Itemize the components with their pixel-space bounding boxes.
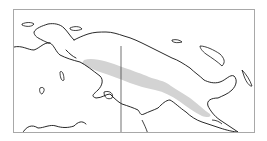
- island-new-ireland: [242, 70, 252, 86]
- island-aru: [60, 71, 64, 80]
- island-manus: [172, 40, 182, 43]
- island-waigeo: [22, 23, 34, 27]
- coastline-australia-north: [22, 122, 86, 133]
- island-new-britain: [200, 46, 224, 66]
- island-biak: [70, 27, 82, 31]
- distribution-range: [82, 59, 211, 117]
- map-frame: [13, 9, 255, 133]
- new-guinea-map: [14, 10, 255, 133]
- cape-york: [142, 120, 148, 133]
- coastline-mainland: [14, 32, 238, 132]
- island-kai: [40, 87, 45, 94]
